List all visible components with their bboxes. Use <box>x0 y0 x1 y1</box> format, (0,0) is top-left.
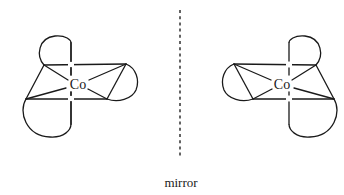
mirror-label: mirror <box>164 175 198 190</box>
crossing-gap <box>286 62 292 67</box>
bond-co-upper-right <box>89 64 126 80</box>
bond-inner-edge <box>234 64 253 99</box>
bond-co-lower-inner <box>253 89 272 99</box>
cobalt-atom-label: Co <box>274 77 290 92</box>
left-enantiomer: Co <box>23 36 138 137</box>
chelate-ring-top <box>39 36 71 65</box>
bond-co-upper-left <box>44 65 68 80</box>
bond-co-upper-inner <box>234 64 271 80</box>
bond-left-edge <box>26 65 44 99</box>
diagram-canvas: Co mirror Co <box>0 0 344 195</box>
bond-co-lower-right <box>88 89 107 99</box>
bond-outer-edge <box>316 65 334 99</box>
bond-co-lower-outer <box>294 88 334 99</box>
chelate-ring-bottom <box>289 99 337 137</box>
bond-co-lower-left <box>26 88 66 99</box>
crossing-gap <box>68 62 74 67</box>
chelate-ring-bottom <box>23 99 71 137</box>
bond-co-upper-outer <box>292 65 316 80</box>
bond-right-edge <box>107 64 126 99</box>
chelate-ring-right <box>107 64 138 101</box>
crossing-gap <box>286 96 292 101</box>
bond-top-edge <box>234 64 316 65</box>
crossing-gap <box>68 96 74 101</box>
chelate-ring-side <box>222 64 253 101</box>
chelate-ring-top <box>289 36 321 65</box>
bond-top-edge <box>44 64 126 65</box>
cobalt-atom-label: Co <box>70 77 86 92</box>
